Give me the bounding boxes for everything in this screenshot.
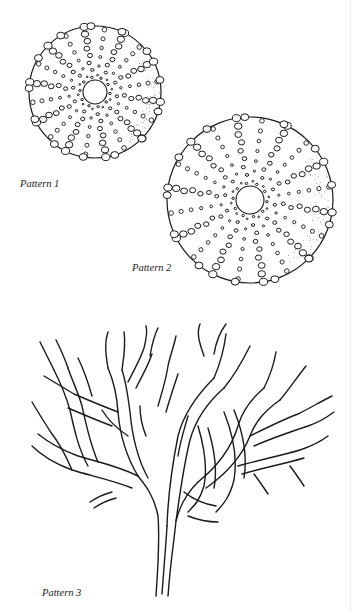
pattern-1-caption: Pattern 1 — [20, 178, 59, 189]
page-edge-divider — [350, 0, 351, 612]
pattern-3-caption: Pattern 3 — [42, 587, 81, 598]
illustration-page: Pattern 1 Pattern 2 — [0, 0, 359, 612]
coral-drawing — [28, 316, 348, 596]
urchin-1-drawing — [20, 22, 170, 167]
pattern-1-urchin-illustration — [20, 22, 170, 167]
pattern-2-urchin-illustration — [160, 112, 340, 292]
pattern-3-coral-illustration — [28, 316, 348, 596]
urchin-2-drawing — [160, 112, 340, 292]
pattern-2-caption: Pattern 2 — [132, 262, 171, 273]
